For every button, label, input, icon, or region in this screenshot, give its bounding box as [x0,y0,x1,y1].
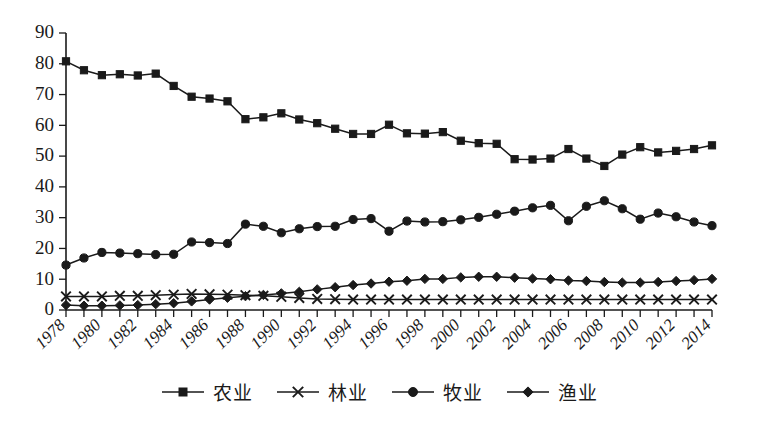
marker-square [62,58,69,65]
marker-diamond [97,301,106,310]
marker-square [619,151,626,158]
marker-circle [152,251,160,259]
marker-circle [582,202,590,210]
x-tick-label: 1980 [67,315,105,353]
marker-diamond [205,295,214,304]
marker-circle [134,250,142,258]
legend-label: 林业 [328,378,368,405]
legend-entry-3[interactable]: 牧业 [390,378,483,405]
marker-square [529,156,536,163]
series-line [66,61,712,166]
legend-entry-2[interactable]: 林业 [275,378,368,405]
marker-square [367,130,374,137]
y-tick-label: 30 [35,206,54,227]
marker-square [350,130,357,137]
marker-square [457,137,464,144]
y-tick-label: 70 [35,83,54,104]
marker-circle [511,207,519,215]
marker-square [708,142,715,149]
y-tick-label: 90 [35,21,54,42]
marker-circle [564,217,572,225]
line-chart-plot: 0102030405060708090 19781980198219841986… [0,0,758,436]
marker-diamond [492,272,501,281]
marker-circle [403,217,411,225]
x-tick-label: 2006 [534,315,572,353]
marker-circle [439,218,447,226]
marker-square [421,130,428,137]
y-tick-label: 80 [35,52,54,73]
marker-diamond [348,280,357,289]
marker-diamond [564,276,573,285]
marker-diamond [510,273,519,282]
marker-square [673,147,680,154]
x-tick-label: 1996 [354,315,392,353]
y-tick-label: 10 [35,268,54,289]
marker-diamond [313,285,322,294]
marker-square [260,114,267,121]
marker-circle [528,204,536,212]
legend-label: 农业 [213,378,253,405]
marker-circle [188,238,196,246]
legend-marker-diamond-icon [505,383,551,401]
y-axis: 0102030405060708090 [35,21,66,319]
data-series-group [61,58,717,311]
marker-square [116,71,123,78]
marker-diamond [133,300,142,309]
marker-square [475,140,482,147]
marker-circle [475,213,483,221]
legend-marker-x-icon [275,383,321,401]
marker-square [170,82,177,89]
marker-circle [654,209,662,217]
marker-circle [349,215,357,223]
marker-square [224,98,231,105]
y-tick-label: 40 [35,175,54,196]
x-tick-label: 2008 [570,315,608,353]
legend-marker-square-icon [160,383,206,401]
x-tick-label: 1982 [103,315,141,353]
marker-circle [409,387,418,396]
x-tick-label: 2012 [641,315,679,353]
marker-diamond [438,274,447,283]
marker-diamond [456,273,465,282]
y-tick-label: 0 [45,298,55,319]
marker-diamond [402,276,411,285]
marker-square [179,388,187,396]
marker-diamond [523,386,533,396]
marker-diamond [618,278,627,287]
legend-marker-circle-icon [390,383,436,401]
marker-circle [116,249,124,257]
x-tick-label: 1984 [139,315,177,353]
marker-circle [708,222,716,230]
legend-entry-1[interactable]: 农业 [160,378,253,405]
marker-diamond [528,274,537,283]
marker-square [601,162,608,169]
x-tick-label: 2014 [677,315,715,353]
marker-diamond [61,300,70,309]
marker-circle [421,218,429,226]
x-tick-labels: 1978198019821984198619881990199219941996… [31,315,715,353]
marker-square [134,72,141,79]
legend-entry-4[interactable]: 渔业 [505,378,598,405]
marker-diamond [546,275,555,284]
marker-square [637,144,644,151]
marker-circle [98,248,106,256]
marker-diamond [384,277,393,286]
x-tick-label: 2002 [462,315,500,353]
marker-square [403,130,410,137]
marker-square [511,156,518,163]
series-林业 [61,289,717,304]
x-tick-label: 1978 [31,315,69,353]
marker-circle [277,229,285,237]
marker-circle [313,222,321,230]
marker-square [565,145,572,152]
marker-circle [457,216,465,224]
marker-diamond [79,301,88,310]
marker-square [314,120,321,127]
marker-diamond [151,299,160,308]
legend-label: 渔业 [558,378,598,405]
marker-circle [600,197,608,205]
marker-diamond [474,272,483,281]
marker-circle [493,210,501,218]
chart-figure: 0102030405060708090 19781980198219841986… [0,0,758,436]
marker-circle [205,238,213,246]
